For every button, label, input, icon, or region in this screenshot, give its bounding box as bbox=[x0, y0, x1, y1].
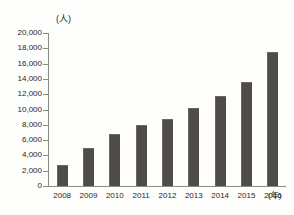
bar bbox=[188, 108, 199, 186]
x-tick-label: 2015 bbox=[233, 192, 261, 200]
y-tick-mark bbox=[43, 79, 48, 80]
y-tick-mark bbox=[43, 48, 48, 49]
y-tick-mark bbox=[43, 155, 48, 156]
x-tick-label: 2012 bbox=[154, 192, 182, 200]
y-tick-mark bbox=[43, 64, 48, 65]
y-tick-mark bbox=[43, 140, 48, 141]
y-tick-mark bbox=[43, 171, 48, 172]
bar bbox=[136, 125, 147, 186]
y-tick-label: 2,000 bbox=[1, 167, 42, 175]
bar bbox=[215, 96, 226, 186]
y-tick-label: 8,000 bbox=[1, 121, 42, 129]
bar bbox=[241, 82, 252, 186]
y-axis-unit-label: (人) bbox=[56, 12, 71, 25]
y-tick-label: 18,000 bbox=[1, 44, 42, 52]
x-tick-label: 2014 bbox=[206, 192, 234, 200]
y-tick-label: 20,000 bbox=[1, 29, 42, 37]
bar bbox=[162, 119, 173, 186]
y-tick-label: 12,000 bbox=[1, 90, 42, 98]
bar bbox=[109, 134, 120, 186]
x-axis-unit-label: (年) bbox=[268, 192, 281, 200]
y-tick-mark bbox=[43, 94, 48, 95]
y-axis-line bbox=[48, 33, 49, 187]
y-tick-label: 16,000 bbox=[1, 60, 42, 68]
y-tick-label: 4,000 bbox=[1, 151, 42, 159]
x-tick-label: 2009 bbox=[75, 192, 103, 200]
x-axis-line bbox=[48, 186, 286, 187]
y-tick-mark bbox=[43, 33, 48, 34]
bar-chart: (人) 02,0004,0006,0008,00010,00012,00014,… bbox=[0, 0, 294, 215]
y-tick-label: 10,000 bbox=[1, 106, 42, 114]
bar bbox=[57, 165, 68, 186]
x-tick-label: 2011 bbox=[127, 192, 155, 200]
y-tick-mark bbox=[43, 186, 48, 187]
y-tick-mark bbox=[43, 110, 48, 111]
y-tick-label: 14,000 bbox=[1, 75, 42, 83]
x-tick-label: 2010 bbox=[101, 192, 129, 200]
y-tick-label: 0 bbox=[1, 182, 42, 190]
y-tick-mark bbox=[43, 125, 48, 126]
x-tick-label: 2008 bbox=[48, 192, 76, 200]
bar bbox=[267, 52, 278, 186]
x-tick-label: 2013 bbox=[180, 192, 208, 200]
y-tick-label: 6,000 bbox=[1, 136, 42, 144]
bar bbox=[83, 148, 94, 186]
